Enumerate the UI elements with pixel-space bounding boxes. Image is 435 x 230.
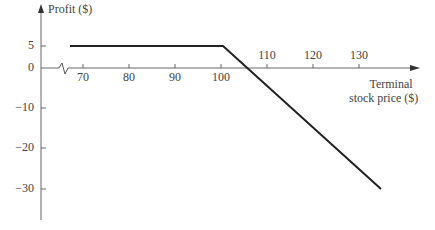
y-tick-5: 5 — [4, 38, 34, 53]
axis-break-icon — [59, 63, 68, 74]
y-tick-m10: −10 — [4, 100, 34, 115]
x-tick-80: 80 — [123, 70, 135, 85]
y-tick-0: 0 — [4, 60, 34, 75]
x-tick-90: 90 — [169, 70, 181, 85]
x-tick-110: 110 — [258, 48, 276, 63]
y-tick-m20: −20 — [4, 140, 34, 155]
x-axis-label-line2: stock price ($) — [349, 91, 418, 106]
x-tick-70: 70 — [77, 70, 89, 85]
y-axis-label: Profit ($) — [48, 2, 92, 17]
x-tick-100: 100 — [212, 70, 230, 85]
chart-canvas — [0, 0, 435, 230]
x-axis-label-line1: Terminal — [366, 77, 416, 92]
x-tick-130: 130 — [350, 48, 368, 63]
y-tick-m30: −30 — [4, 181, 34, 196]
y-axis-arrow-icon — [38, 4, 44, 13]
x-axis-arrow-icon — [410, 65, 420, 71]
x-tick-120: 120 — [304, 48, 322, 63]
profit-line — [70, 46, 381, 189]
